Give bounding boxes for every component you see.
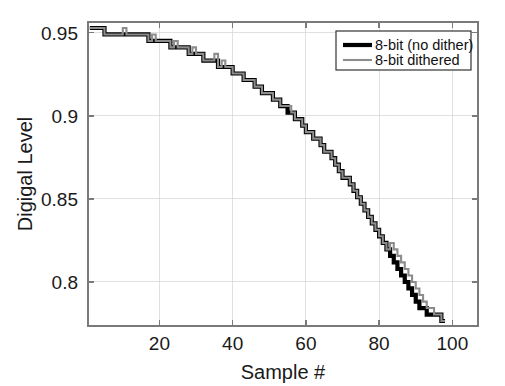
y-tick-label: 0.95: [41, 23, 78, 44]
x-axis-tick-labels: 20406080100: [149, 333, 468, 354]
y-axis-title: Digigal Level: [14, 117, 36, 232]
x-tick-label: 60: [295, 333, 316, 354]
line-chart: 20406080100 0.950.90.850.8 Sample # Digi…: [0, 0, 505, 386]
y-tick-label: 0.9: [52, 106, 78, 127]
x-tick-label: 100: [437, 333, 469, 354]
x-tick-label: 80: [369, 333, 390, 354]
series-line-no-dither: [90, 28, 445, 321]
x-axis-title: Sample #: [241, 361, 326, 383]
series-line-dithered: [90, 28, 445, 321]
data-series-group: [90, 28, 445, 321]
y-tick-label: 0.85: [41, 189, 78, 210]
legend-label-no-dither: 8-bit (no dither): [375, 37, 473, 53]
x-tick-label: 20: [149, 333, 170, 354]
x-tick-label: 40: [222, 333, 243, 354]
y-axis-tick-labels: 0.950.90.850.8: [41, 23, 78, 293]
chart-legend: 8-bit (no dither) 8-bit dithered: [336, 31, 473, 70]
y-tick-label: 0.8: [52, 272, 78, 293]
legend-label-dithered: 8-bit dithered: [375, 52, 460, 68]
chart-figure: 20406080100 0.950.90.850.8 Sample # Digi…: [0, 0, 505, 386]
